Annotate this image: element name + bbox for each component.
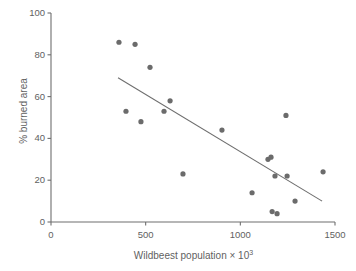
y-axis-title: % burned area (19, 56, 29, 166)
data-point (147, 65, 152, 70)
data-point (274, 211, 279, 216)
axes-group (51, 13, 335, 222)
y-tick-label: 100 (9, 8, 45, 18)
data-point (268, 155, 273, 160)
data-point (270, 209, 275, 214)
data-point (249, 190, 254, 195)
data-point (161, 109, 166, 114)
data-point (284, 173, 289, 178)
trend-line (118, 78, 322, 201)
data-point (138, 119, 143, 124)
data-points (116, 40, 325, 217)
trend-line-segment (118, 78, 322, 201)
data-point (272, 173, 277, 178)
x-tick-label: 500 (121, 230, 171, 240)
y-tick-label: 0 (9, 217, 45, 227)
data-point (219, 127, 224, 132)
x-axis-title: Wildbeest population × 103 (51, 251, 336, 261)
data-point (116, 40, 121, 45)
data-point (123, 109, 128, 114)
x-tick-label: 0 (26, 230, 76, 240)
x-tick-label: 1000 (215, 230, 265, 240)
data-point (283, 113, 288, 118)
data-point (292, 199, 297, 204)
x-axis-title-exponent: 3 (249, 249, 253, 256)
scatter-plot-figure: 020406080100 050010001500 % burned area … (0, 0, 356, 271)
data-point (180, 171, 185, 176)
data-point (132, 42, 137, 47)
data-point (320, 169, 325, 174)
x-tick-label: 1500 (310, 230, 356, 240)
data-point (167, 98, 172, 103)
x-axis-title-base: Wildbeest population × 10 (134, 250, 249, 261)
y-tick-label: 20 (9, 175, 45, 185)
